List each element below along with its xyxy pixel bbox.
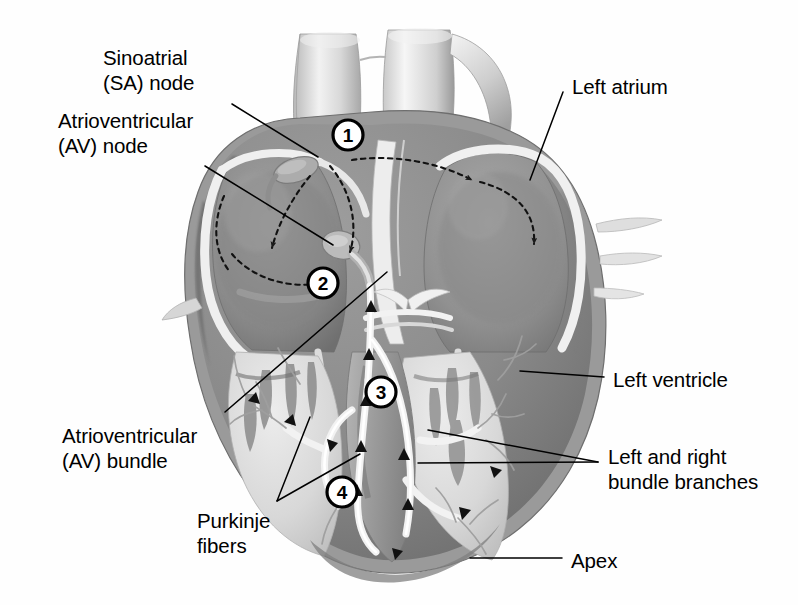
callout-4[interactable]: 4 [327,477,357,507]
label-bundle-branches: Left and right bundle branches [608,444,758,494]
leader-bundle-branch-b [418,462,598,463]
label-left-atrium: Left atrium [572,74,668,99]
callout-3-label: 3 [376,382,387,403]
label-sinoatrial-node: Sinoatrial (SA) node [103,45,194,95]
callout-1-label: 1 [343,125,354,146]
callout-2[interactable]: 2 [308,268,338,298]
callout-3[interactable]: 3 [366,377,396,407]
label-apex: Apex [571,548,617,573]
label-left-ventricle: Left ventricle [613,367,728,392]
label-atrioventricular-bundle: Atrioventricular (AV) bundle [62,423,197,473]
label-atrioventricular-node: Atrioventricular (AV) node [58,108,193,158]
heart-conduction-diagram: 1 2 3 4 Sinoatrial (SA) node Atrioventri… [0,0,798,605]
callout-4-label: 4 [337,482,348,503]
callout-1[interactable]: 1 [333,120,363,150]
callout-2-label: 2 [318,273,329,294]
label-purkinje-fibers: Purkinje fibers [197,508,270,558]
